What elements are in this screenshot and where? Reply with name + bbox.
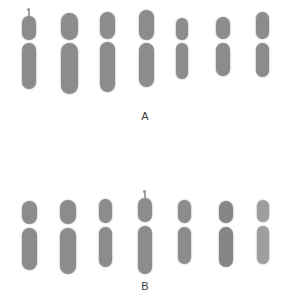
chromosome bbox=[138, 190, 152, 290]
chromosome bbox=[178, 190, 191, 290]
chromosome-short-arm bbox=[22, 16, 36, 40]
chromosome-short-arm bbox=[60, 200, 76, 224]
chromosome bbox=[22, 190, 37, 290]
chromosome bbox=[100, 8, 115, 108]
chromosome bbox=[257, 190, 269, 290]
chromosome-long-arm bbox=[22, 43, 36, 89]
chromosome bbox=[139, 8, 154, 108]
chromosome-short-arm bbox=[100, 12, 115, 39]
panel-a-chromosome-row bbox=[0, 8, 290, 108]
chromosome bbox=[176, 8, 188, 108]
chromosome bbox=[60, 190, 76, 290]
chromosome-long-arm bbox=[99, 227, 112, 267]
satellite-dot bbox=[27, 8, 30, 11]
chromosome-short-arm bbox=[178, 200, 191, 223]
chromosome-short-arm bbox=[61, 13, 78, 40]
chromosome bbox=[22, 8, 36, 108]
chromosome-short-arm bbox=[176, 18, 188, 40]
chromosome-long-arm bbox=[138, 226, 152, 274]
chromosome-short-arm bbox=[256, 12, 269, 39]
chromosome bbox=[61, 8, 78, 108]
chromosome-long-arm bbox=[61, 43, 78, 94]
chromosome-short-arm bbox=[138, 198, 152, 222]
chromosome-long-arm bbox=[219, 227, 233, 267]
chromosome-short-arm bbox=[257, 200, 269, 222]
chromosome-long-arm bbox=[22, 228, 37, 270]
chromosome bbox=[219, 190, 233, 290]
chromosome-long-arm bbox=[257, 226, 269, 264]
satellite-dot bbox=[143, 190, 146, 193]
panel-b-chromosome-row bbox=[0, 190, 290, 290]
chromosome-short-arm bbox=[139, 10, 154, 40]
chromosome-long-arm bbox=[216, 43, 230, 76]
chromosome-short-arm bbox=[219, 201, 233, 223]
chromosome-short-arm bbox=[22, 201, 37, 224]
karyotype-figure: AB bbox=[0, 0, 290, 305]
chromosome-long-arm bbox=[100, 42, 115, 92]
chromosome bbox=[256, 8, 269, 108]
panel-a-label: A bbox=[0, 110, 290, 122]
chromosome-long-arm bbox=[256, 43, 269, 77]
panel-b-label: B bbox=[0, 280, 290, 292]
chromosome bbox=[216, 8, 230, 108]
chromosome-short-arm bbox=[99, 199, 112, 223]
chromosome-long-arm bbox=[139, 43, 154, 87]
chromosome-long-arm bbox=[176, 43, 188, 79]
chromosome-long-arm bbox=[60, 228, 76, 274]
chromosome-long-arm bbox=[178, 227, 191, 264]
chromosome bbox=[99, 190, 112, 290]
chromosome-short-arm bbox=[216, 17, 230, 39]
